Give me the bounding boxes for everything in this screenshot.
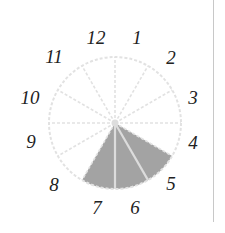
radial-line <box>58 90 115 123</box>
sector-label-1: 1 <box>132 27 142 48</box>
sector-label-11: 11 <box>45 46 63 67</box>
sector-label-2: 2 <box>166 47 176 68</box>
radial-line <box>115 66 148 123</box>
vertical-divider <box>213 0 214 222</box>
center-dot <box>112 120 119 127</box>
sector-label-4: 4 <box>188 132 198 153</box>
sector-label-10: 10 <box>21 87 41 108</box>
sector-label-7: 7 <box>92 197 103 218</box>
sector-label-8: 8 <box>49 174 59 195</box>
sector-label-9: 9 <box>26 131 36 152</box>
sector-label-12: 12 <box>87 27 107 48</box>
sector-label-3: 3 <box>187 87 198 108</box>
sector-label-5: 5 <box>166 173 176 194</box>
radial-line <box>82 66 115 123</box>
sector-clock-diagram: 123456789101112 <box>0 0 225 233</box>
sector-label-6: 6 <box>130 197 140 218</box>
radial-line <box>115 90 172 123</box>
